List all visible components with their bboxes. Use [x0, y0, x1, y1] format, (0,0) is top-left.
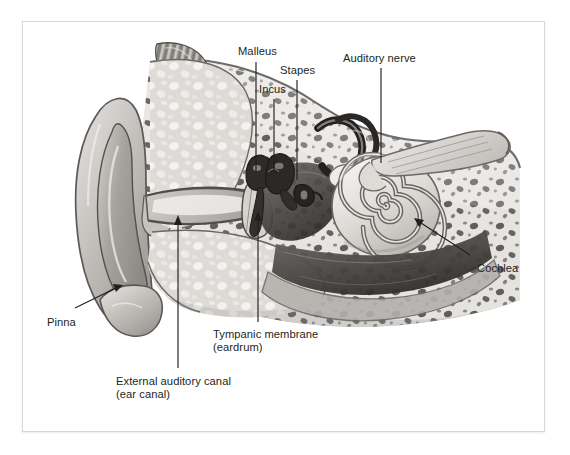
- label-auditory-nerve: Auditory nerve: [343, 52, 416, 65]
- label-external-auditory-canal: External auditory canal (ear canal): [116, 375, 231, 402]
- label-incus: Incus: [259, 83, 286, 96]
- label-external-auditory-canal-line1: External auditory canal: [116, 375, 231, 388]
- label-malleus: Malleus: [238, 45, 277, 58]
- label-tympanic-membrane-line1: Tympanic membrane: [213, 328, 318, 341]
- label-tympanic-membrane: Tympanic membrane (eardrum): [213, 328, 318, 355]
- label-tympanic-membrane-line2: (eardrum): [213, 341, 318, 354]
- label-layer: Malleus Incus Stapes Auditory nerve Coch…: [0, 0, 570, 455]
- label-stapes: Stapes: [280, 64, 315, 77]
- ear-anatomy-figure: Malleus Incus Stapes Auditory nerve Coch…: [0, 0, 570, 455]
- label-cochlea: Cochlea: [477, 262, 518, 275]
- label-pinna: Pinna: [47, 316, 76, 329]
- label-external-auditory-canal-line2: (ear canal): [116, 388, 231, 401]
